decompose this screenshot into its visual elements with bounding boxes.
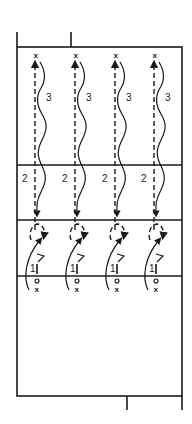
step-label-1: 1 [110, 263, 116, 274]
loop-arrow [70, 224, 84, 240]
ball-icon [115, 279, 119, 283]
end-position-marker: x [74, 51, 79, 60]
dribble-path-arrow [156, 62, 165, 214]
step-label-2: 2 [22, 173, 28, 184]
drill-lanes: x321xx321xx321xx321x [22, 51, 171, 294]
ball-contact-icon [117, 254, 124, 262]
start-position-marker: x [75, 285, 80, 294]
ball-contact-icon [37, 254, 44, 262]
step-label-3: 3 [126, 92, 132, 103]
ball-contact-icon [77, 254, 84, 262]
end-position-marker: x [153, 51, 158, 60]
ball-icon [154, 279, 158, 283]
drill-lane: x321x [62, 51, 92, 294]
ball-icon [35, 279, 39, 283]
dribble-path-arrow [37, 62, 46, 214]
drill-lane: x321x [141, 51, 171, 294]
end-position-marker: x [114, 51, 119, 60]
dribble-path-arrow [77, 62, 86, 214]
drill-lane: x321x [22, 51, 52, 294]
step-label-2: 2 [141, 173, 147, 184]
end-position-marker: x [34, 51, 39, 60]
start-position-marker: x [154, 285, 159, 294]
court-outline [17, 32, 182, 410]
start-position-marker: x [115, 285, 120, 294]
loop-arrow [30, 224, 44, 240]
drill-lane: x321x [102, 51, 132, 294]
volleyball-court-diagram: x321xx321xx321xx321x [0, 0, 192, 424]
loop-arrow [149, 224, 163, 240]
step-label-3: 3 [165, 92, 171, 103]
step-label-1: 1 [149, 263, 155, 274]
start-position-marker: x [35, 285, 40, 294]
dribble-path-arrow [117, 62, 126, 214]
step-label-3: 3 [86, 92, 92, 103]
ball-icon [75, 279, 79, 283]
step-label-2: 2 [102, 173, 108, 184]
step-label-2: 2 [62, 173, 68, 184]
ball-contact-icon [156, 254, 163, 262]
step-label-3: 3 [46, 92, 52, 103]
court-boundary [17, 47, 182, 396]
step-label-1: 1 [30, 263, 36, 274]
step-label-1: 1 [70, 263, 76, 274]
loop-arrow [110, 224, 124, 240]
